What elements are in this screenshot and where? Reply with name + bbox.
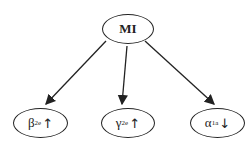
node-gamma-2e: γ2e↑ <box>101 108 155 138</box>
node-mi: MI <box>102 14 154 44</box>
edge-mi-beta <box>46 41 106 104</box>
node-beta-subscript: 2e <box>35 119 42 127</box>
arrow-down-icon: ↓ <box>219 116 230 131</box>
edge-mi-gamma <box>122 46 127 104</box>
arrow-up-icon: ↑ <box>129 116 140 131</box>
node-beta-symbol: β <box>28 115 35 131</box>
arrow-up-icon: ↑ <box>42 116 53 131</box>
node-alpha-symbol: α <box>205 115 212 131</box>
edge-mi-alpha <box>145 41 214 104</box>
node-mi-label: MI <box>119 21 136 37</box>
node-alpha-subscript: 1a <box>212 119 219 127</box>
node-gamma-subscript: 2e <box>122 119 129 127</box>
node-beta-2e: β2e↑ <box>13 108 68 138</box>
node-alpha-1a: α1a↓ <box>190 108 245 138</box>
